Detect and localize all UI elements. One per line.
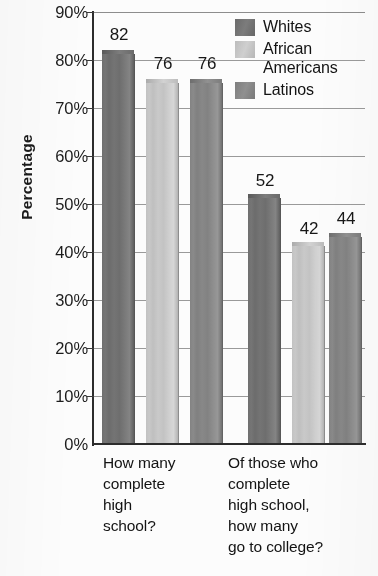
y-tick-label-70: 70% bbox=[30, 99, 88, 118]
bar-face bbox=[146, 83, 179, 444]
x-category-label-1: Of those who complete high school, how m… bbox=[228, 452, 378, 557]
legend: Whites African Americans Latinos bbox=[235, 17, 338, 102]
bar-face bbox=[329, 237, 362, 444]
y-tick-label-50: 50% bbox=[30, 195, 88, 214]
y-tick-label-20: 20% bbox=[30, 339, 88, 358]
legend-item-latinos: Latinos bbox=[235, 80, 338, 99]
bar-group1-latinos bbox=[329, 233, 361, 444]
x-category-label-0: How many complete high school? bbox=[103, 452, 228, 536]
data-label-group1-african-americans: 42 bbox=[288, 219, 330, 239]
y-tickmark-40 bbox=[86, 252, 94, 253]
data-label-group1-whites: 52 bbox=[244, 171, 286, 191]
y-axis-line bbox=[92, 11, 94, 446]
legend-item-african-americans: African Americans bbox=[235, 39, 338, 77]
bar-face bbox=[102, 54, 135, 444]
y-tickmark-90 bbox=[86, 12, 94, 13]
bar-chart-figure: Percentage 90% 80% 70% 60% 50% 40% 30% 2… bbox=[0, 0, 378, 576]
legend-item-whites: Whites bbox=[235, 17, 338, 36]
legend-swatch-latinos-icon bbox=[235, 82, 255, 99]
y-tickmark-80 bbox=[86, 60, 94, 61]
y-axis-tick-labels: 90% 80% 70% 60% 50% 40% 30% 20% 10% 0% bbox=[26, 0, 88, 576]
legend-label-whites: Whites bbox=[263, 17, 311, 36]
x-axis-line bbox=[92, 443, 366, 445]
bar-group0-african-americans bbox=[146, 79, 178, 444]
data-label-group0-latinos: 76 bbox=[186, 54, 228, 74]
bar-group0-latinos bbox=[190, 79, 222, 444]
y-tick-label-40: 40% bbox=[30, 243, 88, 262]
legend-label-african-americans: African Americans bbox=[263, 39, 338, 77]
y-tickmark-70 bbox=[86, 108, 94, 109]
bar-group1-whites bbox=[248, 194, 280, 444]
y-tick-label-80: 80% bbox=[30, 51, 88, 70]
data-label-group0-african-americans: 76 bbox=[142, 54, 184, 74]
y-tickmark-30 bbox=[86, 300, 94, 301]
data-label-group1-latinos: 44 bbox=[325, 209, 367, 229]
bar-group0-whites bbox=[102, 50, 134, 444]
y-tick-label-10: 10% bbox=[30, 387, 88, 406]
legend-swatch-african-americans-icon bbox=[235, 41, 255, 58]
legend-label-latinos: Latinos bbox=[263, 80, 314, 99]
data-label-group0-whites: 82 bbox=[98, 25, 140, 45]
bar-face bbox=[190, 83, 223, 444]
y-tick-label-0: 0% bbox=[30, 435, 88, 454]
y-tick-label-30: 30% bbox=[30, 291, 88, 310]
bar-face bbox=[248, 198, 281, 444]
legend-swatch-whites-icon bbox=[235, 19, 255, 36]
bar-face bbox=[292, 246, 325, 444]
bar-group1-african-americans bbox=[292, 242, 324, 444]
y-tickmark-50 bbox=[86, 204, 94, 205]
gridline-90 bbox=[93, 12, 365, 13]
y-tick-label-90: 90% bbox=[30, 3, 88, 22]
y-tickmark-20 bbox=[86, 348, 94, 349]
y-tick-label-60: 60% bbox=[30, 147, 88, 166]
y-tickmark-10 bbox=[86, 396, 94, 397]
y-tickmark-60 bbox=[86, 156, 94, 157]
